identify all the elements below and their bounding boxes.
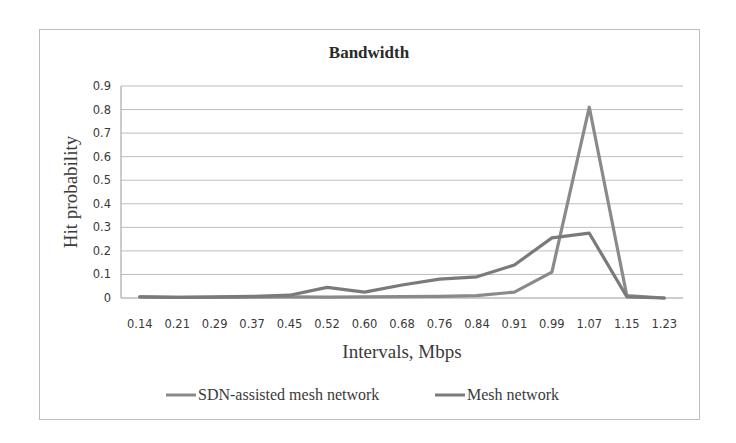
x-tick-label: 0.29 <box>202 317 228 331</box>
x-axis-ticks: 0.140.210.290.370.450.520.600.680.760.84… <box>127 317 677 331</box>
x-tick-label: 0.99 <box>539 317 565 331</box>
x-tick-label: 0.84 <box>464 317 490 331</box>
x-tick-label: 0.60 <box>352 317 378 331</box>
y-tick-label: 0.3 <box>93 220 111 234</box>
y-tick-label: 0.4 <box>93 197 111 211</box>
chart-title: Bandwidth <box>329 43 410 62</box>
y-tick-label: 0.1 <box>93 267 111 281</box>
x-tick-label: 0.14 <box>127 317 153 331</box>
x-tick-label: 1.15 <box>614 317 640 331</box>
x-tick-label: 0.45 <box>277 317 303 331</box>
y-tick-label: 0 <box>104 291 111 305</box>
x-tick-label: 0.68 <box>389 317 415 331</box>
legend-label: Mesh network <box>467 386 559 403</box>
x-tick-label: 0.21 <box>164 317 190 331</box>
legend: SDN-assisted mesh networkMesh network <box>166 386 559 403</box>
gridlines <box>121 86 683 298</box>
x-tick-label: 0.91 <box>502 317 528 331</box>
x-tick-label: 0.52 <box>314 317 340 331</box>
line-chart: Bandwidth 00.10.20.30.40.50.60.70.80.9 0… <box>0 0 736 443</box>
series-lines <box>140 107 665 298</box>
x-tick-label: 1.07 <box>577 317 603 331</box>
y-axis-label: Hit probability <box>60 135 81 248</box>
y-tick-label: 0.2 <box>93 244 111 258</box>
y-tick-label: 0.8 <box>93 103 111 117</box>
legend-label: SDN-assisted mesh network <box>198 386 379 403</box>
y-tick-label: 0.6 <box>93 150 111 164</box>
x-tick-label: 0.76 <box>427 317 453 331</box>
series-line-sdn-assisted-mesh-network <box>140 107 665 298</box>
x-tick-label: 0.37 <box>239 317 265 331</box>
y-tick-label: 0.5 <box>93 173 111 187</box>
x-tick-label: 1.23 <box>651 317 677 331</box>
y-tick-label: 0.9 <box>93 79 111 93</box>
series-line-mesh-network <box>140 233 665 298</box>
y-axis-ticks: 00.10.20.30.40.50.60.70.80.9 <box>93 79 111 305</box>
y-tick-label: 0.7 <box>93 126 111 140</box>
x-axis-label: Intervals, Mbps <box>342 341 461 362</box>
